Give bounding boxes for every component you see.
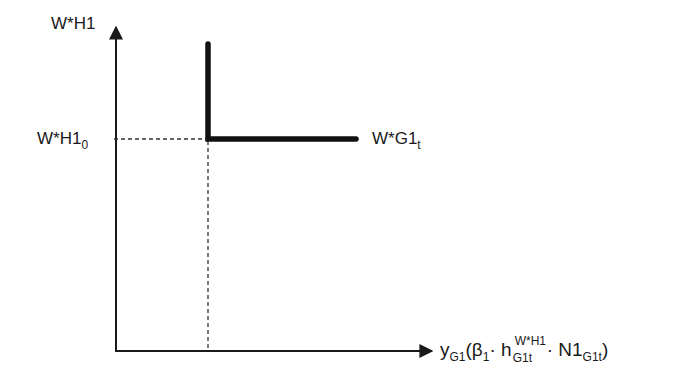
curve-label-main: W*G1	[372, 129, 417, 148]
x-label-dot: ·	[547, 339, 553, 360]
y-axis-label: W*H1	[51, 15, 95, 32]
curve-label-sub: t	[417, 138, 420, 152]
reference-level-sub: 0	[81, 138, 88, 152]
wg1-curve	[208, 44, 356, 139]
x-axis-label: yG1(β1· hW*H1G1t· N1G1t)	[440, 336, 608, 366]
x-label-h-scripts: W*H1G1t	[513, 336, 547, 366]
reference-level-main: W*H1	[37, 129, 81, 148]
x-label-h-sup: W*H1	[515, 334, 546, 348]
x-label-close-paren: )	[602, 339, 608, 360]
x-label-n-sub: G1t	[583, 350, 602, 364]
x-label-beta: β	[472, 339, 483, 360]
x-label-dot: ·	[489, 339, 495, 360]
x-label-y-sub: G1	[450, 350, 466, 364]
diagram-canvas	[0, 0, 674, 379]
reference-level-label: W*H10	[37, 130, 88, 147]
x-label-h-sub: G1t	[513, 351, 532, 365]
x-label-h: h	[501, 339, 512, 360]
x-label-y: y	[440, 339, 450, 360]
x-label-n: N1	[558, 339, 582, 360]
curve-label: W*G1t	[372, 130, 421, 147]
